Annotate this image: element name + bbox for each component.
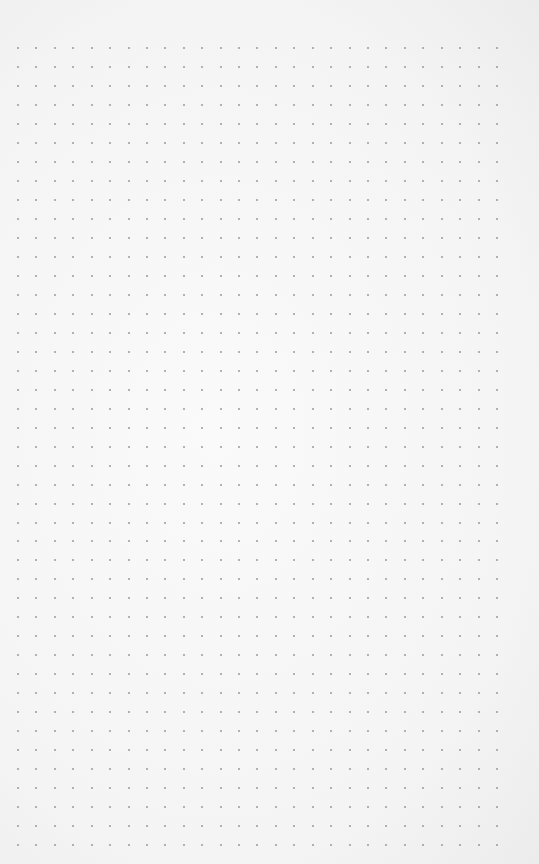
grid-dot [91,654,93,656]
grid-dot [275,768,277,770]
grid-dot [91,711,93,713]
grid-dot [422,844,424,846]
grid-dot [459,578,461,580]
grid-dot [146,256,148,258]
grid-dot [422,522,424,524]
grid-dot [330,503,332,505]
grid-dot [146,616,148,618]
grid-dot [146,218,148,220]
grid-dot [128,806,130,808]
grid-dot [256,66,258,68]
grid-dot [275,806,277,808]
grid-dot [385,559,387,561]
grid-dot [164,237,166,239]
grid-dot [404,559,406,561]
grid-dot [312,654,314,656]
grid-dot [17,370,19,372]
grid-dot [275,66,277,68]
grid-dot [349,123,351,125]
grid-dot [72,142,74,144]
grid-dot [164,370,166,372]
grid-dot [91,275,93,277]
grid-dot [441,104,443,106]
grid-dot [238,844,240,846]
grid-dot [238,199,240,201]
grid-dot [109,275,111,277]
grid-dot [91,749,93,751]
grid-dot [220,578,222,580]
grid-dot [459,465,461,467]
grid-dot [441,332,443,334]
grid-dot [17,844,19,846]
grid-dot [183,711,185,713]
grid-dot [256,768,258,770]
grid-dot [17,408,19,410]
grid-dot [275,332,277,334]
grid-dot [367,844,369,846]
grid-dot [349,635,351,637]
grid-dot [459,256,461,258]
grid-dot [201,237,203,239]
grid-dot [91,635,93,637]
grid-dot [496,730,498,732]
grid-dot [256,47,258,49]
grid-dot [17,540,19,542]
grid-dot [293,218,295,220]
grid-dot [72,559,74,561]
grid-dot [330,237,332,239]
grid-dot [128,332,130,334]
grid-dot [459,294,461,296]
grid-dot [367,294,369,296]
grid-dot [496,237,498,239]
grid-dot [275,104,277,106]
grid-dot [238,370,240,372]
grid-dot [256,256,258,258]
grid-dot [17,673,19,675]
grid-dot [422,180,424,182]
grid-dot [164,408,166,410]
grid-dot [459,692,461,694]
grid-dot [459,484,461,486]
grid-dot [293,578,295,580]
grid-dot [275,161,277,163]
grid-dot [201,844,203,846]
grid-dot [54,85,56,87]
grid-dot [478,180,480,182]
grid-dot [220,616,222,618]
grid-dot [275,294,277,296]
grid-dot [385,313,387,315]
grid-dot [238,408,240,410]
grid-dot [220,313,222,315]
grid-dot [109,484,111,486]
grid-dot [496,540,498,542]
grid-dot [293,749,295,751]
grid-dot [256,237,258,239]
grid-dot [54,313,56,315]
grid-dot [385,465,387,467]
grid-dot [441,635,443,637]
grid-dot [109,332,111,334]
grid-dot [201,787,203,789]
grid-dot [201,313,203,315]
grid-dot [109,578,111,580]
grid-dot [35,578,37,580]
grid-dot [238,825,240,827]
grid-dot [385,218,387,220]
grid-dot [91,484,93,486]
grid-dot [183,142,185,144]
grid-dot [422,142,424,144]
grid-dot [275,616,277,618]
grid-dot [496,616,498,618]
grid-dot [349,825,351,827]
grid-dot [349,540,351,542]
grid-dot [128,730,130,732]
grid-dot [35,370,37,372]
grid-dot [54,47,56,49]
grid-dot [293,635,295,637]
grid-dot [72,616,74,618]
grid-dot [293,104,295,106]
grid-dot [183,635,185,637]
grid-dot [256,597,258,599]
grid-dot [201,218,203,220]
grid-dot [459,104,461,106]
